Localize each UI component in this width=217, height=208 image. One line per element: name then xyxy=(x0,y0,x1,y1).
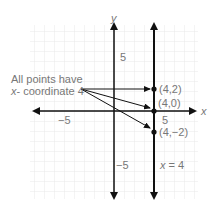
point-4-0 xyxy=(151,108,156,113)
annotation-line1: All points have xyxy=(11,73,84,85)
point-label-4-neg2: (4,−2) xyxy=(159,127,188,138)
y-tick-neg5: −5 xyxy=(116,160,129,171)
annotation-line2: x- coordinate 4 xyxy=(11,85,84,97)
point-label-4-2: (4,2) xyxy=(159,84,182,95)
annotation: All points have x- coordinate 4 xyxy=(11,73,84,97)
y-tick-5: 5 xyxy=(120,52,126,63)
point-4-2 xyxy=(151,86,156,91)
x-tick-5: 5 xyxy=(162,115,168,126)
line-label: x = 4 xyxy=(160,160,184,171)
x-tick-neg5: −5 xyxy=(58,115,71,126)
coordinate-plane xyxy=(0,0,217,208)
point-4-neg2 xyxy=(151,129,156,134)
point-label-4-0: (4,0) xyxy=(158,98,181,109)
y-axis-label: y xyxy=(111,13,117,24)
x-axis-label: x xyxy=(201,106,207,117)
